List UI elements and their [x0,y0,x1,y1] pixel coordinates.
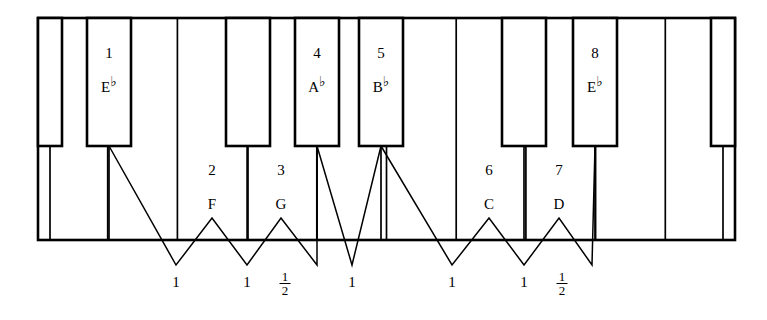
degree-number-1: 1 [105,46,113,61]
note-letter-4: A [308,79,319,95]
black-key-edge-right-fill [711,18,735,146]
degree-number-3: 3 [277,163,285,178]
degree-number-4: 4 [313,46,321,61]
fraction-half-7: 1 2 [557,271,568,297]
note-letter-5: B [373,79,383,95]
interval-label-4: 1 [348,275,356,290]
interval-label-3: 1 2 [280,271,291,298]
note-label-8: E♭ [587,80,603,95]
interval-label-2: 1 [243,275,251,290]
fraction-numerator-3: 1 [280,271,291,283]
fraction-denominator-3: 2 [280,285,291,297]
degree-number-6: 6 [485,163,493,178]
interval-label-5: 1 [448,275,456,290]
note-label-4: A♭ [308,80,325,95]
fraction-half-3: 1 2 [280,271,291,297]
fraction-numerator-7: 1 [557,271,568,283]
note-label-3: G [276,197,287,212]
keyboard-diagram: 1 E♭ 2 F 3 G 4 A♭ 5 B♭ 6 C 7 D 8 E♭ 1 1 … [0,0,767,320]
black-key-unlabeled-a-fill [226,18,270,146]
note-label-7: D [554,197,565,212]
note-label-2: F [208,197,216,212]
flat-icon-1: ♭ [110,73,117,89]
note-letter-1: E [101,79,110,95]
note-label-1: E♭ [101,80,117,95]
flat-icon-4: ♭ [319,73,326,89]
black-key-unlabeled-b-fill [502,18,546,146]
black-key-edge-left-fill [38,18,62,146]
flat-icon-8: ♭ [596,73,603,89]
flat-icon-5: ♭ [383,73,390,89]
note-label-6: C [484,197,494,212]
interval-label-7: 1 2 [557,271,568,298]
fraction-denominator-7: 2 [557,285,568,297]
degree-number-7: 7 [555,163,563,178]
degree-number-5: 5 [377,46,385,61]
interval-label-6: 1 [520,275,528,290]
note-letter-8: E [587,79,596,95]
note-label-5: B♭ [373,80,390,95]
degree-number-2: 2 [208,163,216,178]
degree-number-8: 8 [591,46,599,61]
interval-label-1: 1 [172,275,180,290]
